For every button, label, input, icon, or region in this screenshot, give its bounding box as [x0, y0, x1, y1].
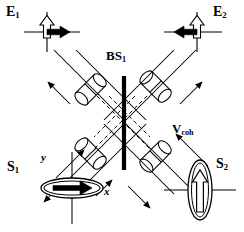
cylinder-upper-right [138, 69, 174, 105]
label-e2: E2 [213, 5, 227, 20]
label-axis-y: y [41, 152, 46, 163]
beam-upper-left [54, 50, 146, 120]
label-e1: E1 [6, 5, 20, 20]
arrow-ne-out [180, 82, 202, 104]
figure-canvas: E1 E2 BS1 Vcoh S1 S2 y x [0, 0, 244, 232]
optics-diagram-svg [0, 0, 244, 232]
label-vcoh: Vcoh [172, 122, 193, 137]
label-s2: S2 [216, 157, 228, 172]
field-e1 [24, 12, 80, 52]
label-s1: S1 [7, 160, 19, 175]
cylinder-lower-right [138, 138, 174, 174]
label-bs1: BS1 [106, 49, 126, 64]
arrow-se-down [128, 186, 150, 208]
arrow-nw-out [48, 82, 70, 104]
label-axis-x: x [104, 186, 110, 197]
